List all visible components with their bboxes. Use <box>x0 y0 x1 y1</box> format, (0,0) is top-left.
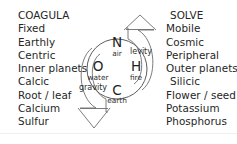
solve-item-mobile: Mobile <box>166 22 237 35</box>
solve-item-potassium: Potassium <box>166 102 237 115</box>
solve-item-phosphorus: Phosphorus <box>166 115 237 128</box>
element-earth: C earth <box>107 82 127 105</box>
levity-arrow-head <box>124 15 156 30</box>
element-air-name: air <box>112 49 123 58</box>
element-earth-name: earth <box>107 96 127 105</box>
bottom-rule <box>0 133 237 134</box>
solve-item-outer-planets: Outer planets <box>166 62 237 75</box>
solve-item-cosmic: Cosmic <box>166 36 237 49</box>
diagram-canvas: COAGULA Fixed Earthly Centric Inner plan… <box>0 0 237 144</box>
element-fire-name: fire <box>130 73 143 82</box>
gravity-label: gravity <box>79 83 107 92</box>
element-fire-symbol: H <box>131 58 141 74</box>
gravity-arrow-head <box>78 108 110 128</box>
solve-item-flower-seed: Flower / seed <box>166 89 237 102</box>
element-water: O water <box>87 58 109 82</box>
solve-item-silicic: Silicic <box>166 75 237 88</box>
element-air-symbol: N <box>112 34 122 50</box>
levity-label: levity <box>130 47 152 56</box>
element-water-symbol: O <box>93 58 104 74</box>
solve-item-peripheral: Peripheral <box>166 49 237 62</box>
element-air: N air <box>112 34 123 58</box>
solve-heading: SOLVE <box>166 9 237 22</box>
element-circle-diagram: N air O water H fire C earth levity grav… <box>72 6 168 138</box>
element-fire: H fire <box>130 58 143 82</box>
element-water-name: water <box>87 73 109 82</box>
solve-column: SOLVE Mobile Cosmic Peripheral Outer pla… <box>166 9 237 129</box>
